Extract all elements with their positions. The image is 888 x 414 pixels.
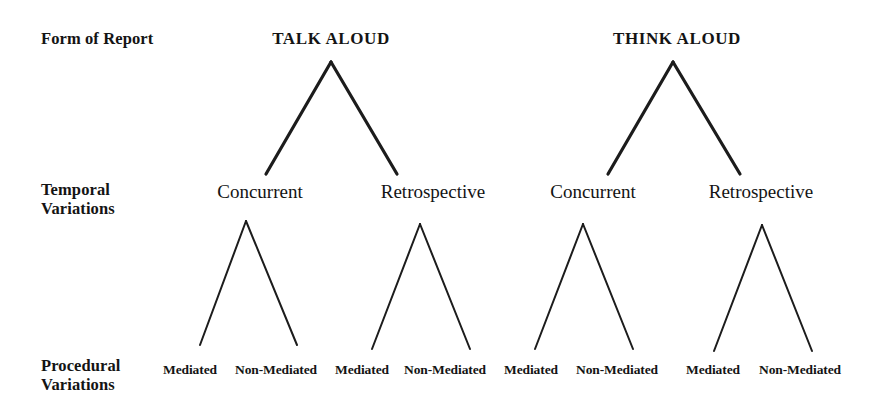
row-label-procedural-variations: Procedural Variations bbox=[41, 356, 121, 394]
node-talk-concurrent-mediated: Mediated bbox=[163, 362, 217, 378]
node-think-retrospective: Retrospective bbox=[709, 181, 813, 203]
major-connector-group bbox=[266, 62, 740, 174]
connector-think-aloud-to-retrospective bbox=[673, 62, 740, 174]
connector-talk-retrospective-to-non-mediated bbox=[420, 224, 470, 349]
connector-think-aloud-to-concurrent bbox=[608, 62, 673, 174]
node-talk-concurrent: Concurrent bbox=[217, 181, 302, 203]
row-label-form-of-report: Form of Report bbox=[41, 29, 153, 48]
hierarchy-diagram: Form of Report Temporal Variations Proce… bbox=[0, 0, 888, 414]
node-think-aloud: THINK ALOUD bbox=[613, 29, 741, 49]
node-think-retrospective-non-mediated: Non-Mediated bbox=[759, 362, 841, 378]
node-think-concurrent-mediated: Mediated bbox=[504, 362, 558, 378]
minor-connector-group bbox=[200, 221, 812, 351]
node-talk-concurrent-non-mediated: Non-Mediated bbox=[235, 362, 317, 378]
connector-think-retrospective-to-mediated bbox=[714, 225, 762, 351]
connector-layer bbox=[0, 0, 888, 414]
connector-talk-concurrent-to-mediated bbox=[200, 221, 246, 345]
node-talk-retrospective-mediated: Mediated bbox=[335, 362, 389, 378]
node-think-concurrent-non-mediated: Non-Mediated bbox=[576, 362, 658, 378]
node-talk-aloud: TALK ALOUD bbox=[272, 29, 390, 49]
connector-talk-concurrent-to-non-mediated bbox=[246, 221, 297, 345]
row-label-temporal-variations: Temporal Variations bbox=[41, 180, 115, 218]
node-talk-retrospective: Retrospective bbox=[381, 181, 485, 203]
connector-talk-aloud-to-retrospective bbox=[331, 62, 397, 174]
connector-think-retrospective-to-non-mediated bbox=[762, 225, 812, 351]
node-think-concurrent: Concurrent bbox=[550, 181, 635, 203]
node-talk-retrospective-non-mediated: Non-Mediated bbox=[404, 362, 486, 378]
node-think-retrospective-mediated: Mediated bbox=[686, 362, 740, 378]
connector-talk-aloud-to-concurrent bbox=[266, 62, 331, 174]
connector-think-concurrent-to-mediated bbox=[535, 224, 583, 349]
connector-think-concurrent-to-non-mediated bbox=[583, 224, 633, 349]
connector-talk-retrospective-to-mediated bbox=[372, 224, 420, 349]
